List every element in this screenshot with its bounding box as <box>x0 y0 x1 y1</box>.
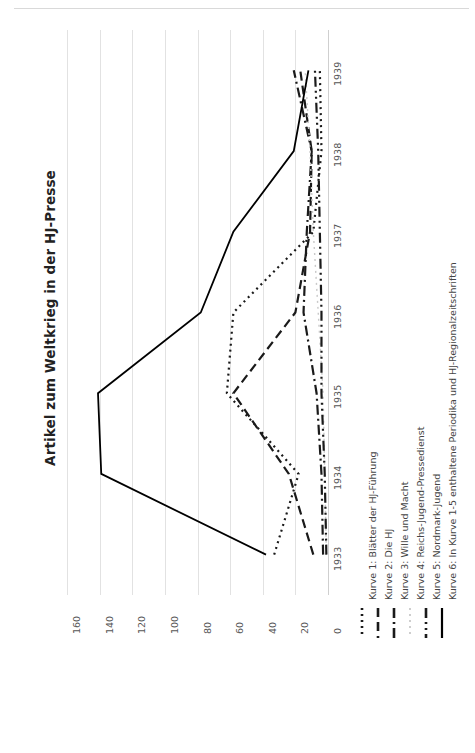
category-tick-label-1938: 1938 <box>332 143 343 167</box>
series-line-4 <box>305 70 326 554</box>
legend-label-5: Kurve 5: Nordmark-Jugend <box>431 474 442 600</box>
value-tick-label: 140 <box>104 616 115 634</box>
legend-swatch-icon <box>435 608 449 638</box>
value-tick-label: 60 <box>234 622 245 634</box>
category-tick-label-1939: 1939 <box>332 62 343 86</box>
category-tick-label-1933: 1933 <box>332 546 343 570</box>
series-line-1 <box>227 70 322 554</box>
legend-swatch-icon <box>403 608 417 638</box>
series-line-2 <box>233 70 313 554</box>
legend-swatch-icon <box>371 608 385 638</box>
legend-swatch-icon <box>355 608 369 638</box>
value-axis-ticks: 160140120100806040200 <box>67 600 328 640</box>
legend-swatch-icon <box>387 608 401 638</box>
value-tick-label: 80 <box>202 622 213 634</box>
chart-legend: Kurve 1: Blätter der HJ-FührungKurve 2: … <box>352 0 475 753</box>
series-line-6 <box>98 70 308 554</box>
value-tick-label: 0 <box>332 628 343 634</box>
legend-label-2: Kurve 2: Die HJ <box>383 529 394 600</box>
legend-label-6: Kurve 6: In Kurve 1-5 enthaltene Periodi… <box>447 262 458 600</box>
series-lines <box>67 30 328 595</box>
legend-label-1: Kurve 1: Blätter der HJ-Führung <box>367 452 378 600</box>
category-tick-label-1936: 1936 <box>332 304 343 328</box>
series-line-5 <box>315 70 326 554</box>
category-tick-label-1935: 1935 <box>332 385 343 409</box>
legend-swatch-icon <box>419 608 433 638</box>
chart-title: Artikel zum Weltkrieg in der HJ-Presse <box>42 168 64 468</box>
value-tick-label: 40 <box>267 622 278 634</box>
legend-label-3: Kurve 3: Wille und Macht <box>399 482 410 600</box>
value-tick-label: 160 <box>71 616 82 634</box>
plot-area <box>67 30 328 595</box>
value-axis-line <box>328 30 329 595</box>
value-tick-label: 120 <box>136 616 147 634</box>
value-tick-label: 100 <box>169 616 180 634</box>
value-tick-label: 20 <box>299 622 310 634</box>
category-tick-label-1934: 1934 <box>332 466 343 490</box>
category-tick-label-1937: 1937 <box>332 224 343 248</box>
legend-label-4: Kurve 4: Reichs-Jugend-Pressedienst <box>415 427 426 600</box>
